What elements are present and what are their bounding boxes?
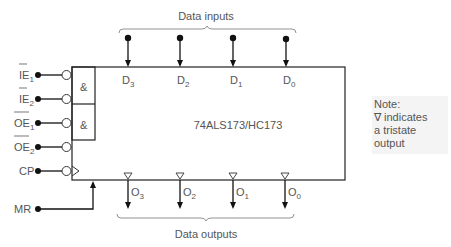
pin-o3: O3 [124,173,145,209]
pin-ie2: IE2 [19,88,71,108]
pin-o1: O1 [229,173,250,209]
svg-text:O3: O3 [131,186,145,201]
pin-o0: O0 [281,173,302,209]
pin-mr: MR [14,181,96,215]
svg-text:D0: D0 [283,74,296,89]
clock-triangle-icon [72,166,79,176]
svg-text:D3: D3 [122,74,135,89]
pin-ie1: IE1 [19,64,71,84]
svg-text:IE1: IE1 [19,69,34,84]
tristate-icon [229,173,237,179]
tristate-icon [281,173,289,179]
note-line: ∇ indicates [374,111,446,124]
tristate-icon [124,173,132,179]
svg-text:IE2: IE2 [19,93,34,108]
svg-text:O2: O2 [183,186,197,201]
pin-o2: O2 [176,173,197,209]
pin-d0: D0 [283,36,296,89]
svg-text:OE2: OE2 [14,141,35,156]
svg-text:CP: CP [19,165,34,177]
tristate-icon [176,173,184,179]
and-gate-2-label: & [80,119,88,131]
svg-text:D1: D1 [230,74,243,89]
chip-label: 74ALS173/HC173 [194,119,283,131]
pin-cp: CP [19,165,79,177]
data-inputs-label: Data inputs [178,10,234,22]
data-inputs-brace [119,26,296,33]
note-line: Note: [374,98,446,111]
svg-text:D2: D2 [177,74,190,89]
arrow-up-icon [90,181,96,188]
svg-text:OE1: OE1 [14,117,35,132]
data-outputs-brace [117,214,294,221]
svg-text:O0: O0 [288,186,302,201]
svg-text:MR: MR [14,203,31,215]
pin-d2: D2 [177,35,190,89]
svg-text:O1: O1 [236,186,250,201]
data-outputs-label: Data outputs [175,228,238,240]
and-gate-1-label: & [80,81,88,93]
pin-oe2: OE2 [14,136,71,156]
note-line: a tristate [374,124,446,137]
pin-d3: D3 [122,35,135,89]
pin-oe1: OE1 [14,112,71,132]
pin-d1: D1 [230,35,243,89]
tristate-note: Note: ∇ indicates a tristate output [372,96,448,154]
note-line: output [374,137,446,150]
